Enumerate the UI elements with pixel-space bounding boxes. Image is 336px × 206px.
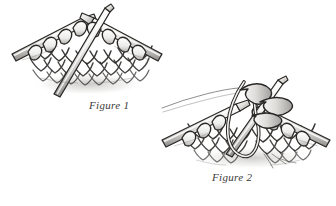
figure-1-caption: Figure 1 <box>89 99 129 111</box>
figure-2-illustration <box>160 62 336 174</box>
figure-1-drawing <box>10 2 175 98</box>
figure-1-illustration <box>10 2 175 98</box>
figure-2-caption: Figure 2 <box>212 171 252 183</box>
figure-2-drawing <box>160 62 336 174</box>
illustration-page: Figure 1 <box>0 0 336 206</box>
